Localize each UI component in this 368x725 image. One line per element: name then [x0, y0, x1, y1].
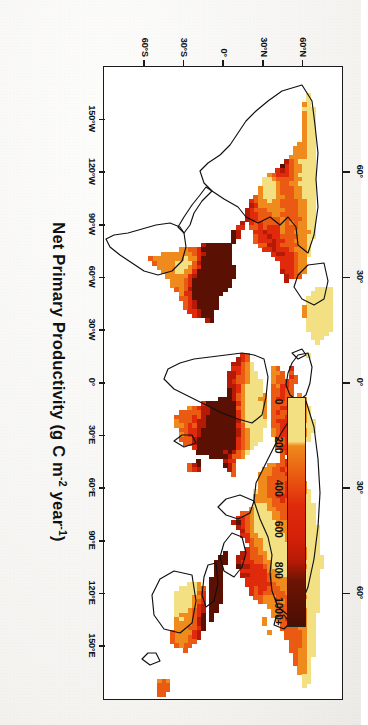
colorbar-tick-800: 800: [273, 561, 285, 578]
colorbar-tick-200: 200: [273, 436, 285, 453]
npp-cell: [240, 573, 245, 578]
lat-tick-mark: [262, 60, 264, 66]
lat-tick-mark: [143, 60, 145, 66]
npp-cell: [279, 269, 284, 274]
npp-cell: [249, 590, 254, 595]
lat-tick-label--60: 60°S: [139, 37, 149, 56]
lon-tick-mark: [99, 329, 105, 331]
npp-cell: [174, 423, 179, 428]
lon-tick-label--120: 120°W: [87, 157, 97, 184]
lon-tick-label-90: 90°E: [87, 530, 97, 549]
lat-top-tick-label-30: 30°: [355, 270, 365, 283]
lon-tick-mark: [99, 224, 105, 226]
lon-tick-label--150: 150°W: [87, 105, 97, 132]
lat-top-tick-mark: [343, 171, 350, 173]
lon-tick-label--90: 90°W: [87, 213, 97, 235]
npp-cell: [178, 295, 183, 300]
lat-tick-mark: [182, 60, 184, 66]
npp-cell: [310, 335, 315, 340]
map-plot-area[interactable]: 02004006008001000+: [103, 66, 343, 700]
lat-top-tick-mark: [343, 382, 350, 384]
lon-tick-mark: [99, 434, 105, 436]
lon-tick-mark: [99, 487, 105, 489]
lat-top-tick-label--60: 60°: [355, 586, 365, 599]
axis-title-mid: year: [49, 486, 67, 526]
colorbar-tick-1000: 1000+: [273, 597, 285, 626]
longitude-axis: 150°W120°W90°W60°W30°W0°30°E60°E90°E120°…: [71, 66, 105, 698]
lat-top-tick-label--30: 30°: [355, 480, 365, 493]
npp-cell: [266, 630, 271, 635]
colorbar-legend: 02004006008001000+: [260, 397, 306, 625]
lat-top-tick-label-0: 0°: [355, 377, 365, 385]
lat-tick-mark: [222, 60, 224, 66]
axis-title-exponent-1: -2: [57, 476, 69, 486]
axis-title: Net Primary Productivity (g C m-2 year-1…: [48, 66, 69, 698]
latitude-axis-top: 60°30°0°30°60°: [343, 66, 368, 698]
npp-cell: [306, 353, 311, 358]
npp-cell: [284, 634, 289, 639]
npp-cell: [235, 564, 240, 569]
npp-cell: [301, 683, 306, 688]
npp-cell: [187, 467, 192, 472]
colorbar-tick-labels: 02004006008001000+: [261, 397, 289, 625]
lat-top-tick-label-60: 60°: [355, 164, 365, 177]
lon-tick-mark: [99, 592, 105, 594]
lon-tick-mark: [99, 118, 105, 120]
lat-tick-mark: [301, 60, 303, 66]
lon-tick-label-0: 0°: [87, 377, 97, 385]
lon-tick-label--60: 60°W: [87, 265, 97, 287]
axis-title-end: ): [49, 536, 67, 542]
npp-cell: [169, 282, 174, 287]
npp-cell: [244, 581, 249, 586]
npp-cell: [249, 225, 254, 230]
npp-cell: [306, 326, 311, 331]
npp-cell: [301, 313, 306, 318]
colorbar-tick-600: 600: [273, 520, 285, 537]
npp-map-figure: 02004006008001000+ 150°W120°W90°W60°W30°…: [11, 18, 351, 708]
npp-cell: [284, 278, 289, 283]
lon-tick-mark: [99, 382, 105, 384]
lat-tick-label-30: 30°N: [258, 37, 268, 57]
npp-cell: [293, 661, 298, 666]
lat-top-tick-mark: [343, 592, 350, 594]
npp-cell: [297, 669, 302, 674]
colorbar-gradient: [287, 397, 306, 627]
npp-cell: [231, 520, 236, 525]
npp-cell: [178, 436, 183, 441]
axis-title-exponent-2: -1: [57, 526, 69, 536]
lat-tick-label-60: 60°N: [298, 37, 308, 57]
lon-tick-mark: [99, 540, 105, 542]
lat-top-tick-mark: [343, 276, 350, 278]
lon-tick-mark: [99, 276, 105, 278]
lon-tick-label-120: 120°E: [87, 580, 97, 604]
npp-cell: [156, 691, 161, 696]
colorbar-tick-400: 400: [273, 479, 285, 496]
npp-cell: [253, 238, 258, 243]
lat-top-tick-mark: [343, 487, 350, 489]
lon-tick-label-30: 30°E: [87, 425, 97, 444]
lon-tick-label-150: 150°E: [87, 633, 97, 657]
npp-cell: [222, 463, 227, 468]
colorbar-tick-0: 0: [273, 398, 285, 404]
npp-cell: [183, 304, 188, 309]
axis-title-main: Net Primary Productivity (g C m: [49, 222, 67, 477]
lon-tick-mark: [99, 171, 105, 173]
lat-tick-label-0: 0°: [219, 48, 229, 56]
lon-tick-mark: [99, 645, 105, 647]
npp-cell: [209, 617, 214, 622]
lon-tick-label--30: 30°W: [87, 318, 97, 340]
lat-tick-label--30: 30°S: [179, 37, 189, 56]
npp-cell: [169, 639, 174, 644]
npp-cell: [147, 256, 152, 261]
latitude-axis-left: 60°N30°N0°30°S60°S: [105, 18, 343, 66]
npp-cell: [240, 533, 245, 538]
lon-tick-label-60: 60°E: [87, 477, 97, 496]
npp-cell: [288, 647, 293, 652]
